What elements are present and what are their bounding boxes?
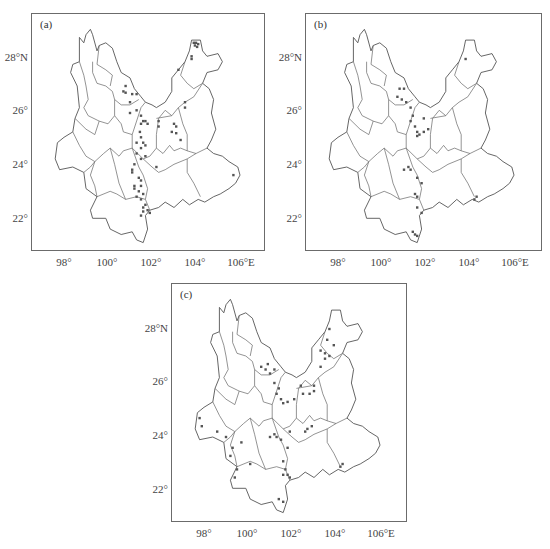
station-point <box>249 463 251 465</box>
station-point <box>190 55 192 57</box>
station-point <box>124 92 126 94</box>
station-point <box>173 123 175 125</box>
station-point <box>286 447 288 449</box>
station-point <box>282 402 284 404</box>
station-point <box>414 125 416 127</box>
prefecture-border <box>75 118 99 134</box>
station-point <box>171 131 173 133</box>
station-point <box>140 123 142 125</box>
station-point <box>142 120 144 122</box>
station-point <box>401 98 403 100</box>
station-point <box>275 393 277 395</box>
station-point <box>264 368 266 370</box>
station-point <box>313 390 315 392</box>
station-point <box>416 235 418 237</box>
station-point <box>195 42 197 44</box>
prefecture-border <box>237 316 252 357</box>
station-point <box>140 115 142 117</box>
station-point <box>260 366 262 368</box>
prefecture-border <box>156 116 171 119</box>
station-point <box>418 133 420 135</box>
prefecture-border <box>230 432 237 467</box>
prefecture-border <box>73 132 132 162</box>
station-point <box>269 436 271 438</box>
station-point <box>284 468 286 470</box>
x-tick-102: 102° <box>131 256 171 268</box>
station-point <box>198 417 200 419</box>
station-point <box>157 120 159 122</box>
y-tick-26: 26° <box>0 104 28 116</box>
station-point <box>140 185 142 187</box>
x-tick-104: 104° <box>449 256 489 268</box>
station-point <box>339 466 341 468</box>
station-point <box>278 498 280 500</box>
station-point <box>184 101 186 103</box>
station-point <box>412 115 414 117</box>
station-point <box>423 131 425 133</box>
station-point <box>267 363 269 365</box>
station-point <box>304 430 306 432</box>
station-point <box>273 433 275 435</box>
prefecture-border <box>79 62 99 121</box>
station-point <box>142 142 144 144</box>
x-tick-104: 104° <box>315 527 355 539</box>
prefecture-border <box>452 108 461 151</box>
prefecture-border <box>219 332 239 391</box>
station-point <box>427 128 429 130</box>
station-point <box>280 398 282 400</box>
prefecture-border <box>272 372 285 418</box>
station-point <box>409 106 411 108</box>
station-point <box>409 120 411 122</box>
station-point <box>142 206 144 208</box>
station-point <box>124 85 126 87</box>
x-tick-100: 100° <box>361 256 401 268</box>
prefecture-border <box>239 386 254 394</box>
station-point <box>144 144 146 146</box>
y-tick-28: 28°N <box>0 51 28 63</box>
y-tick-24: 24° <box>0 158 28 170</box>
station-point <box>225 436 227 438</box>
prefecture-border <box>178 108 187 151</box>
prefecture-border <box>373 116 388 124</box>
station-point <box>324 358 326 360</box>
province-outline <box>329 29 514 242</box>
station-point <box>240 441 242 443</box>
station-point <box>416 135 418 137</box>
prefecture-border <box>371 191 419 199</box>
panel-label: (a) <box>40 18 52 30</box>
yunnan-boundary-map <box>172 284 408 523</box>
station-point <box>190 58 192 60</box>
station-point <box>282 501 284 503</box>
station-point <box>146 123 148 125</box>
prefecture-border <box>97 46 112 87</box>
station-point <box>311 425 313 427</box>
station-point <box>140 214 142 216</box>
map-panel-b: (b) <box>305 13 542 251</box>
station-point <box>423 117 425 119</box>
x-tick-98: 98° <box>44 256 84 268</box>
station-point <box>135 196 137 198</box>
station-point <box>280 439 282 441</box>
station-point <box>135 142 137 144</box>
prefecture-border <box>213 402 272 432</box>
prefecture-border <box>110 148 125 199</box>
station-point <box>420 212 422 214</box>
station-point <box>398 88 400 90</box>
station-point <box>412 231 414 233</box>
station-point <box>129 112 131 114</box>
station-point <box>139 131 141 133</box>
station-point <box>286 401 288 403</box>
station-point <box>409 169 411 171</box>
x-tick-100: 100° <box>87 256 127 268</box>
prefecture-border <box>353 62 373 121</box>
panel-label: (c) <box>180 288 192 300</box>
station-point <box>194 44 196 46</box>
prefecture-border <box>430 145 481 153</box>
x-tick-106: 106°E <box>221 256 261 268</box>
station-point <box>286 474 288 476</box>
station-point <box>308 393 310 395</box>
station-point <box>396 96 398 98</box>
station-point <box>302 393 304 395</box>
station-point <box>475 196 477 198</box>
prefecture-border <box>283 424 336 443</box>
